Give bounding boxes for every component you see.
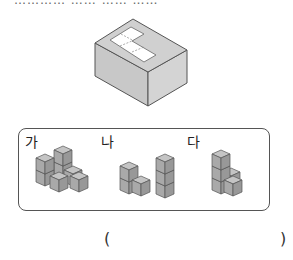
answer-open-paren: (: [104, 229, 110, 248]
option-na-cubes: [120, 154, 174, 198]
answer-close-paren: ): [280, 229, 286, 248]
cube-options-figure: [0, 0, 293, 260]
option-da-cubes: [212, 150, 242, 196]
option-ga-cubes: [36, 146, 88, 192]
